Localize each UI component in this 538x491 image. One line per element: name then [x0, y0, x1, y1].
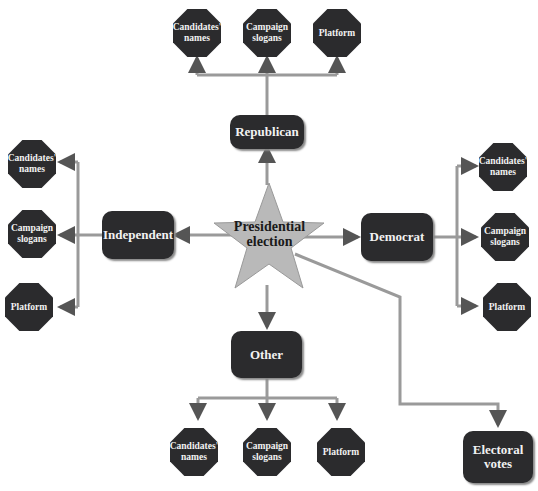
node-electoral-votes: Electoralvotes — [463, 431, 533, 483]
node-independent: Independent — [102, 211, 174, 259]
other-candidates-names: Candidates'names — [170, 428, 218, 476]
node-republican: Republican — [230, 115, 304, 149]
democrat-campaign-slogans: Campaignslogans — [481, 213, 529, 261]
other-campaign-slogans: Campaignslogans — [243, 428, 291, 476]
democrat-platform: Platform — [483, 283, 531, 331]
independent-platform: Platform — [5, 283, 53, 331]
node-other: Other — [231, 331, 302, 378]
democrat-candidates-names: Candidates'names — [479, 143, 527, 191]
center-node-presidential-election: Presidential election — [222, 219, 317, 249]
node-democrat: Democrat — [361, 213, 433, 261]
other-platform: Platform — [317, 428, 365, 476]
republican-platform: Platform — [313, 9, 361, 57]
